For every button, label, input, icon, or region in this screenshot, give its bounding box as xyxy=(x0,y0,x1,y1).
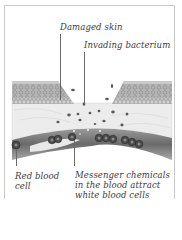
epidermis-right xyxy=(112,81,172,104)
invading-bacterium-label: Invading bacterium xyxy=(84,40,170,50)
red-blood-cell-label: Red blood cell xyxy=(15,171,59,191)
invading-bacterium-leader-line xyxy=(84,52,85,104)
messenger-chemicals-label-line1: Messenger chemicals xyxy=(75,170,170,180)
epidermis-left xyxy=(12,81,74,104)
red-blood-cell-label-line1: Red blood xyxy=(15,171,59,181)
messenger-chemicals-label-line2: in the blood attract xyxy=(75,180,170,190)
red-blood-cell-label-line2: cell xyxy=(15,181,59,191)
damaged-skin-label: Damaged skin xyxy=(60,22,123,32)
messenger-chemicals-leader-line xyxy=(74,140,75,166)
damaged-skin-leader-line xyxy=(60,34,61,100)
messenger-chemicals-label: Messenger chemicals in the blood attract… xyxy=(75,170,170,199)
messenger-chemicals-label-line3: white blood cells xyxy=(75,190,170,199)
red-blood-cell-leader-line xyxy=(16,149,17,166)
